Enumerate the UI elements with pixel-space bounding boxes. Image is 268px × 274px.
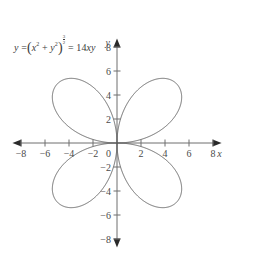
graph-figure: y =(x2 + y2)32 = 14xy −8−6−4−202468−8−6−… — [0, 0, 268, 274]
y-tick-label--8: −8 — [100, 234, 111, 245]
equation-power-numerator: 3 — [63, 34, 66, 39]
y-tick-label--2: −2 — [100, 162, 111, 173]
y-axis-arrow-top — [113, 38, 120, 47]
equation-power-fraction: 32 — [63, 34, 66, 46]
equation-rhs-coefficient: 14 — [76, 42, 86, 53]
tick-label-group: −8−6−4−202468−8−6−4−22468xy — [16, 37, 223, 244]
x-tick-label--8: −8 — [16, 148, 27, 159]
equation-lhs: y — [14, 42, 19, 53]
x-axis-arrow-right — [213, 139, 222, 146]
equation-annotation: y =(x2 + y2)32 = 14xy — [14, 36, 96, 55]
y-tick-label--4: −4 — [100, 186, 111, 197]
equation-power-denominator: 2 — [63, 39, 66, 45]
x-tick-label--2: −2 — [88, 148, 99, 159]
y-tick-label--6: −6 — [100, 210, 111, 221]
y-tick-label-6: 6 — [106, 66, 111, 77]
equation-equals-2: = — [68, 42, 74, 53]
equation-x-exponent: 2 — [36, 41, 39, 47]
x-tick-label-0: 0 — [106, 148, 111, 159]
x-tick-label-2: 2 — [139, 148, 144, 159]
equation-plus: + — [42, 42, 48, 53]
x-tick-label-6: 6 — [187, 148, 192, 159]
equation-open-paren: ( — [27, 40, 32, 55]
equation-rhs-variables: xy — [87, 42, 96, 53]
y-axis-arrow-bottom — [113, 239, 120, 248]
x-axis-label: x — [216, 148, 222, 159]
x-tick-label--6: −6 — [40, 148, 51, 159]
y-tick-label-2: 2 — [106, 114, 111, 125]
y-axis-label: y — [105, 37, 111, 48]
x-axis-arrow-left — [12, 139, 21, 146]
y-tick-label-4: 4 — [106, 90, 111, 101]
x-tick-label-8: 8 — [211, 148, 216, 159]
x-tick-label--4: −4 — [64, 148, 75, 159]
